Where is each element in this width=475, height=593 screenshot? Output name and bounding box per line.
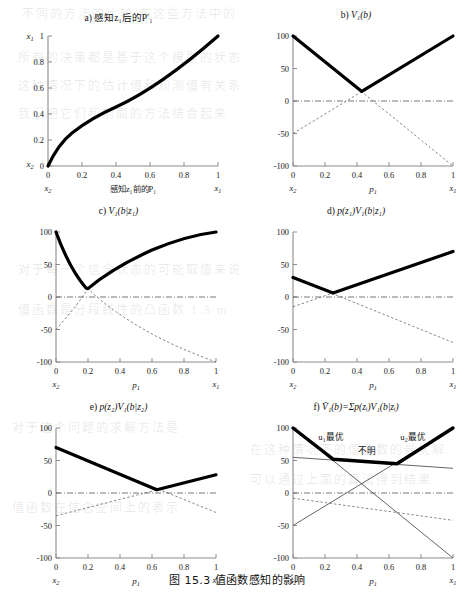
panel-b-xlabel: p1 xyxy=(368,184,377,195)
panel-d-xtick-1: 0.2 xyxy=(320,367,330,376)
panel-a-ytick-2: 0.4 xyxy=(34,110,45,119)
panel-c-xtick-2: 0.4 xyxy=(115,367,126,376)
figure-caption: 图 15.3 值函数感知的影响 xyxy=(0,571,475,587)
panel-a-ylabel-top: x1 xyxy=(25,31,33,42)
panel-e-ytick-m50: -50 xyxy=(41,522,52,531)
panel-d-xtick-3: 0.6 xyxy=(384,367,394,376)
panel-f-annotation-unknown: 不明 xyxy=(358,446,376,456)
panel-d-value-function xyxy=(293,252,453,294)
panel-e-x-ticks: 0 0.2 0.4 0.6 0.8 1 xyxy=(54,554,218,572)
panel-b-ytick-0: 0 xyxy=(285,97,289,106)
panel-c-x-ticks: 0 0.2 0.4 0.6 0.8 1 xyxy=(54,358,218,376)
panel-b-plot: 100 50 0 -50 -100 0 0.2 0.4 0.6 xyxy=(237,4,475,200)
panel-e-ytick-50: 50 xyxy=(44,457,52,466)
panel-f: f) V̄₁(b)=Σp(zᵢ)V₁(b|zᵢ) 100 50 0 -50 - xyxy=(237,396,475,592)
panel-d-xlabel: p1 xyxy=(368,380,377,391)
panel-a-xtick-3: 0.6 xyxy=(145,171,155,180)
panel-a-ylabel-bottom: x2 xyxy=(25,159,34,170)
panel-c-corner-right: x1 xyxy=(212,379,220,390)
panel-d-corner-left: x2 xyxy=(289,379,297,390)
panel-a-ytick-3: 0.6 xyxy=(34,84,44,93)
panel-b: b) V₁(b) 100 50 0 -50 -100 xyxy=(237,4,475,200)
panel-a-plot: 0 0.2 0.4 0.6 0.8 1 0 0.2 0 xyxy=(0,4,237,200)
panel-d: d) p(z₁)V₁(b|z₁) 100 50 0 -50 -100 xyxy=(237,200,475,396)
panel-a-corner-left: x2 xyxy=(44,183,52,194)
panel-a-ytick-1: 0.2 xyxy=(34,136,44,145)
panel-d-xtick-2: 0.4 xyxy=(352,367,363,376)
panel-b-xtick-1: 0.2 xyxy=(320,171,330,180)
panel-e-ytick-0: 0 xyxy=(48,489,52,498)
panel-grid: a) 感知z₁后的P′₁ 0 0.2 0.4 xyxy=(0,4,475,592)
panel-c-plot: 100 50 0 -50 -100 0 0.2 0.4 0.6 xyxy=(0,200,237,396)
panel-b-x-ticks: 0 0.2 0.4 0.6 0.8 1 xyxy=(291,162,455,180)
panel-b-xtick-5: 1 xyxy=(451,171,455,180)
panel-f-line-mixed-lower xyxy=(293,498,453,520)
panel-e-value-function xyxy=(56,448,216,490)
panel-a-x-ticks: 0 0.2 0.4 0.6 0.8 1 xyxy=(46,162,220,180)
panel-e-ytick-m100: -100 xyxy=(37,554,52,563)
panel-c-corner-left: x2 xyxy=(52,379,60,390)
figure-15-3: a) 感知z₁后的P′₁ 0 0.2 0.4 xyxy=(0,0,475,593)
panel-d-ytick-0: 0 xyxy=(285,293,289,302)
panel-b-xtick-3: 0.6 xyxy=(384,171,394,180)
panel-c-ytick-m100: -100 xyxy=(37,358,52,367)
panel-d-ytick-m100: -100 xyxy=(274,358,289,367)
panel-c-xlabel: p1 xyxy=(131,380,140,391)
panel-f-plot: 100 50 0 -50 -100 0 0.2 0.4 0.6 xyxy=(237,396,475,592)
panel-b-xtick-4: 0.8 xyxy=(416,171,426,180)
panel-b-xtick-2: 0.4 xyxy=(352,171,363,180)
panel-a-xtick-4: 0.8 xyxy=(179,171,189,180)
panel-e: e) p(z₂)V₁(b|z₂) 100 50 0 -50 -100 xyxy=(0,396,237,592)
panel-d-plot: 100 50 0 -50 -100 0 0.2 0.4 0.6 xyxy=(237,200,475,396)
panel-f-annotation-u1-optimal: u₁最优 xyxy=(318,431,343,442)
panel-a-corner-right: x1 xyxy=(214,183,222,194)
panel-b-ytick-m50: -50 xyxy=(278,130,289,139)
panel-b-ytick-m100: -100 xyxy=(274,162,289,171)
panel-d-corner-right: x1 xyxy=(449,379,457,390)
panel-a-xtick-2: 0.4 xyxy=(111,171,122,180)
panel-f-ytick-m50: -50 xyxy=(278,522,289,531)
panel-a-posterior-curve xyxy=(48,36,218,166)
panel-b-ytick-100: 100 xyxy=(276,32,289,41)
panel-b-corner-left: x2 xyxy=(289,183,297,194)
panel-a-ytick-0: 0 xyxy=(40,162,44,171)
panel-f-ytick-100: 100 xyxy=(276,424,289,433)
panel-d-ytick-100: 100 xyxy=(276,228,289,237)
panel-f-x-ticks: 0 0.2 0.4 0.6 0.8 1 xyxy=(291,554,455,572)
panel-e-plot: 100 50 0 -50 -100 0 0.2 0.4 0.6 xyxy=(0,396,237,592)
panel-b-corner-right: x1 xyxy=(449,183,457,194)
panel-f-ytick-m100: -100 xyxy=(274,554,289,563)
panel-a-xlabel: 感知z₁前的P₁ xyxy=(110,184,156,194)
panel-a-ytick-5: 1 xyxy=(40,32,44,41)
panel-d-ytick-50: 50 xyxy=(281,261,289,270)
panel-f-ytick-0: 0 xyxy=(285,489,289,498)
panel-b-xtick-0: 0 xyxy=(291,171,295,180)
panel-c-ytick-m50: -50 xyxy=(41,326,52,335)
panel-f-annotation-u2-optimal: u₂最优 xyxy=(400,431,425,442)
panel-c-ytick-100: 100 xyxy=(39,228,52,237)
panel-d-x-ticks: 0 0.2 0.4 0.6 0.8 1 xyxy=(291,358,455,376)
panel-a-xtick-5: 1 xyxy=(216,171,220,180)
panel-c: c) V₁(b|z₁) 100 50 0 -50 -100 xyxy=(0,200,237,396)
panel-e-ytick-100: 100 xyxy=(39,424,52,433)
panel-c-xtick-3: 0.6 xyxy=(147,367,157,376)
panel-a-xtick-1: 0.2 xyxy=(77,171,87,180)
panel-c-xtick-0: 0 xyxy=(54,367,58,376)
panel-c-xtick-5: 1 xyxy=(214,367,218,376)
panel-d-xtick-4: 0.8 xyxy=(416,367,426,376)
panel-d-xtick-0: 0 xyxy=(291,367,295,376)
panel-c-ytick-50: 50 xyxy=(44,261,52,270)
panel-c-ytick-0: 0 xyxy=(48,293,52,302)
panel-c-xtick-4: 0.8 xyxy=(179,367,189,376)
panel-b-value-function xyxy=(293,36,453,91)
panel-c-xtick-1: 0.2 xyxy=(83,367,93,376)
panel-b-ytick-50: 50 xyxy=(281,65,289,74)
panel-a-ytick-4: 0.8 xyxy=(34,58,44,67)
panel-a-y-ticks: 0 0.2 0.4 0.6 0.8 1 xyxy=(34,32,52,171)
panel-f-ytick-50: 50 xyxy=(281,457,289,466)
panel-d-ytick-m50: -50 xyxy=(278,326,289,335)
panel-c-value-function xyxy=(56,232,216,289)
panel-a: a) 感知z₁后的P′₁ 0 0.2 0.4 xyxy=(0,4,237,200)
panel-d-xtick-5: 1 xyxy=(451,367,455,376)
panel-a-xtick-0: 0 xyxy=(46,171,50,180)
